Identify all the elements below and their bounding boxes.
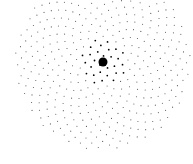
data-point xyxy=(137,89,138,90)
data-point xyxy=(51,26,52,27)
data-point xyxy=(131,45,132,46)
data-point xyxy=(41,5,42,6)
data-point xyxy=(113,88,114,89)
data-point xyxy=(85,137,86,138)
data-point xyxy=(21,75,22,76)
data-point xyxy=(63,103,64,104)
data-point xyxy=(121,88,122,89)
data-point xyxy=(172,107,173,108)
data-point xyxy=(44,81,45,82)
data-point xyxy=(168,61,169,62)
spiral-scatter-plot xyxy=(0,0,193,164)
data-point xyxy=(47,109,48,110)
data-point xyxy=(58,49,59,50)
data-point xyxy=(88,31,89,32)
data-point xyxy=(63,110,64,111)
data-point xyxy=(76,49,77,50)
data-point xyxy=(116,147,117,148)
data-point xyxy=(25,85,26,86)
data-point xyxy=(54,106,55,107)
data-point xyxy=(97,51,99,53)
data-point xyxy=(140,105,141,106)
data-point xyxy=(68,18,69,19)
data-point xyxy=(100,45,102,47)
data-point xyxy=(72,11,73,12)
data-point xyxy=(142,24,143,25)
data-point xyxy=(143,75,144,76)
data-point xyxy=(86,97,87,98)
data-point xyxy=(51,51,52,52)
data-point xyxy=(97,8,98,9)
data-point xyxy=(158,11,159,12)
data-point xyxy=(70,105,71,106)
data-point xyxy=(43,12,44,13)
data-point xyxy=(54,58,55,59)
data-point xyxy=(82,25,83,26)
data-point xyxy=(86,105,87,106)
data-point xyxy=(158,112,159,113)
data-point xyxy=(150,45,151,46)
data-point xyxy=(73,42,74,43)
data-point xyxy=(127,142,128,143)
data-point xyxy=(159,87,160,88)
data-point xyxy=(31,94,32,95)
data-point xyxy=(102,106,103,107)
data-point xyxy=(140,2,141,3)
data-point xyxy=(143,60,144,61)
data-point xyxy=(85,80,86,81)
data-point xyxy=(39,60,40,61)
data-point xyxy=(111,118,112,119)
data-point xyxy=(171,40,172,41)
data-point xyxy=(67,124,68,125)
data-point xyxy=(122,133,123,134)
data-point xyxy=(43,47,44,48)
data-point xyxy=(112,35,113,36)
data-point xyxy=(107,41,109,43)
data-point xyxy=(143,113,144,114)
data-point xyxy=(73,119,74,120)
data-point xyxy=(140,31,141,32)
data-point xyxy=(64,70,65,71)
data-point xyxy=(89,54,91,56)
data-point xyxy=(99,71,101,73)
data-point xyxy=(164,93,165,94)
data-point xyxy=(124,45,125,46)
data-point xyxy=(154,39,155,40)
data-point xyxy=(171,80,172,81)
data-point xyxy=(137,38,138,39)
data-point xyxy=(80,32,81,33)
data-point xyxy=(96,137,97,138)
data-point xyxy=(39,95,40,96)
data-point xyxy=(53,131,54,132)
data-point xyxy=(152,121,153,122)
data-point xyxy=(138,47,139,48)
data-point xyxy=(61,18,62,19)
data-point xyxy=(35,65,36,66)
data-point xyxy=(139,68,140,69)
data-point xyxy=(109,126,110,127)
data-point xyxy=(94,60,96,62)
data-point xyxy=(90,46,92,48)
data-point xyxy=(26,29,27,30)
data-point xyxy=(47,75,48,76)
data-point xyxy=(157,70,158,71)
data-point xyxy=(154,62,155,63)
data-point xyxy=(117,58,119,60)
data-point xyxy=(126,14,127,15)
data-point xyxy=(75,137,76,138)
data-point xyxy=(57,34,58,35)
data-point xyxy=(171,90,172,91)
data-point xyxy=(165,74,166,75)
data-point xyxy=(33,25,34,26)
data-point xyxy=(43,68,44,69)
data-point xyxy=(80,90,81,91)
data-point xyxy=(133,7,134,8)
data-point xyxy=(57,41,58,42)
data-point xyxy=(137,136,138,137)
data-point xyxy=(41,88,42,89)
data-point xyxy=(134,75,135,76)
data-point xyxy=(104,93,105,94)
data-point xyxy=(43,38,44,39)
data-point xyxy=(148,105,149,106)
data-point xyxy=(147,34,148,35)
